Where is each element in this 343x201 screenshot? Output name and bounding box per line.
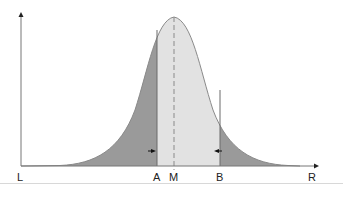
y-axis-arrow-icon [19, 12, 24, 17]
x-axis-arrow-icon [314, 164, 319, 169]
label-m: M [169, 172, 178, 183]
divider [0, 183, 343, 184]
label-a: A [153, 172, 160, 183]
left-tail-region [21, 0, 157, 166]
label-r: R [308, 172, 316, 183]
right-tail-region [220, 0, 310, 166]
label-l: L [17, 172, 23, 183]
center-region [157, 0, 220, 166]
label-b: B [216, 172, 223, 183]
